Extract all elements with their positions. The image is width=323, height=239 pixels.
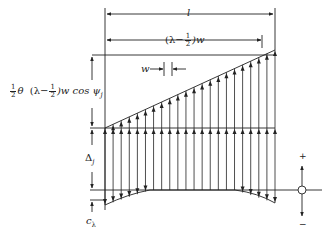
vertical-members [103, 50, 277, 205]
load-distribution-diagram [0, 0, 323, 239]
sloped-load-line [105, 50, 275, 128]
offset-length-label: (λ−12)w [165, 33, 205, 48]
spacing-label: w [141, 64, 150, 74]
span-length-label: l [187, 8, 190, 18]
sign-convention-node [298, 186, 306, 194]
delta-label: Δj [85, 153, 94, 166]
minus-sign: − [299, 220, 307, 229]
c-label: cλ [86, 216, 96, 229]
rise-label: 12θ (λ−12)w cos ψj [9, 84, 103, 99]
plus-sign: + [299, 152, 307, 161]
